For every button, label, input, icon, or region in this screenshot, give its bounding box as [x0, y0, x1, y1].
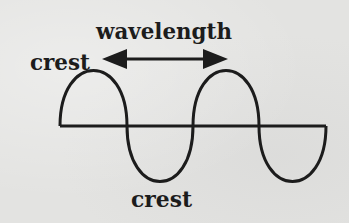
- wavelength-label: wavelength: [95, 17, 232, 44]
- arrow-left-head-icon: [102, 49, 127, 69]
- crest-label-top: crest: [30, 48, 90, 75]
- wave-diagram-svg: wavelength crest crest: [0, 0, 349, 223]
- crest-label-bottom: crest: [131, 185, 192, 212]
- wave-diagram: wavelength crest crest: [0, 0, 349, 223]
- arrow-right-head-icon: [203, 49, 228, 69]
